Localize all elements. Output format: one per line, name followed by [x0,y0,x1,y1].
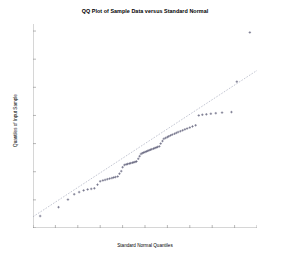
data-point [67,198,70,201]
data-point [181,129,184,132]
data-point [137,158,140,161]
data-point [114,176,117,179]
data-point [126,163,129,166]
data-point [150,148,153,151]
plot-canvas: -2.5-2-1.5-1-0.500.511.522.5-0.6-0.4-0.2… [33,24,257,228]
data-point [78,191,81,194]
data-point [39,215,42,218]
data-point [205,113,208,116]
data-point [158,145,161,148]
data-point [57,206,60,209]
data-point [154,147,157,150]
data-point [73,193,76,196]
data-point [230,111,233,114]
data-point [194,124,197,127]
data-point [106,178,109,181]
data-point [148,149,151,152]
data-point [96,183,99,186]
data-point [93,187,96,190]
chart-title: QQ Plot of Sample Data versus Standard N… [0,8,290,14]
data-point [144,151,147,154]
data-point [201,113,204,116]
data-point [198,114,201,117]
data-point [142,151,145,154]
data-point [118,172,121,175]
data-point [104,179,107,182]
x-axis-label: Standard Normal Quantiles [33,243,257,248]
data-point [155,146,158,149]
plot-area: -2.5-2-1.5-1-0.500.511.522.5-0.6-0.4-0.2… [33,24,257,228]
data-point [134,161,137,164]
data-point [186,127,189,129]
data-point [191,125,194,128]
data-point [156,146,159,149]
data-point [102,179,105,182]
data-point [149,149,152,152]
data-point [125,163,128,166]
data-point [210,113,213,116]
data-point [189,126,192,128]
data-point [138,155,141,158]
data-point [152,147,155,150]
data-point [131,161,134,164]
data-point [90,188,93,191]
data-point [123,164,126,167]
data-point [86,188,89,191]
qq-plot-figure: QQ Plot of Sample Data versus Standard N… [0,0,290,265]
data-point [215,112,218,115]
data-point [129,162,132,165]
data-point [112,176,115,179]
data-point [159,142,162,145]
data-point [121,166,124,169]
data-point [184,128,187,131]
data-point [179,130,182,133]
data-point [249,31,252,34]
data-point [82,189,85,192]
data-point [145,150,148,153]
data-point [120,170,123,173]
data-point [111,177,114,180]
data-point [221,111,224,114]
data-point [99,180,102,183]
data-point [133,161,136,164]
data-point [116,175,119,178]
data-point [236,80,239,83]
reference-line [33,70,257,216]
y-axis-label: Quantiles of Input Sample [13,73,18,169]
data-point [161,140,164,143]
data-point [135,160,138,163]
data-series [39,31,251,217]
data-point [108,177,111,180]
data-point [146,150,149,153]
data-point [128,162,131,165]
